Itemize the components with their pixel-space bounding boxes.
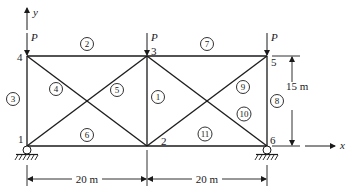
load-label: P <box>30 31 38 43</box>
dimension-horizontal <box>27 150 267 186</box>
member-label-7: 7 <box>205 39 210 49</box>
member-label-9: 9 <box>241 82 246 92</box>
member-label-2: 2 <box>85 39 90 49</box>
load-node-4: P <box>27 31 38 55</box>
dimension-span-left: 20 m <box>76 173 99 185</box>
x-axis-label: x <box>339 139 345 151</box>
truss-members <box>27 56 267 146</box>
member-label-1: 1 <box>156 92 161 102</box>
member-label-8: 8 <box>275 96 280 106</box>
dimension-height: 15 m <box>286 80 309 92</box>
dimension-span-right: 20 m <box>196 173 219 185</box>
member-label-10: 10 <box>240 109 250 119</box>
member-label-11: 11 <box>201 129 210 139</box>
support-node-1 <box>15 146 38 160</box>
truss-diagram: y x P P P 1 2 3 <box>0 0 359 194</box>
y-axis-label: y <box>32 6 38 18</box>
member-label-3: 3 <box>11 94 16 104</box>
x-axis: x <box>305 139 345 151</box>
node-label-2: 2 <box>161 135 167 147</box>
load-label: P <box>270 31 278 43</box>
y-axis: y <box>27 6 38 30</box>
member-label-6: 6 <box>85 130 90 140</box>
node-label-3: 3 <box>151 45 157 57</box>
node-label-1: 1 <box>18 133 24 145</box>
member-label-5: 5 <box>115 85 120 95</box>
support-node-6 <box>255 146 278 160</box>
node-label-5: 5 <box>271 56 277 68</box>
node-label-4: 4 <box>17 51 23 63</box>
load-label: P <box>150 31 158 43</box>
node-label-6: 6 <box>270 134 276 146</box>
load-node-5: P <box>267 31 278 55</box>
member-label-4: 4 <box>54 84 59 94</box>
